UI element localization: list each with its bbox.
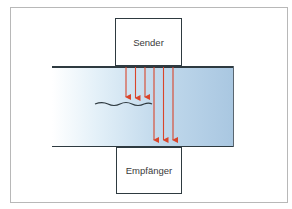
receiver-box: Empfänger (116, 147, 182, 194)
medium-top-edge (52, 66, 234, 68)
sender-box: Sender (115, 18, 182, 66)
medium-right-edge (233, 66, 234, 147)
sender-label: Sender (133, 37, 164, 48)
receiver-label: Empfänger (126, 165, 172, 176)
medium-gradient-fill (52, 66, 234, 147)
medium-channel (52, 66, 234, 147)
